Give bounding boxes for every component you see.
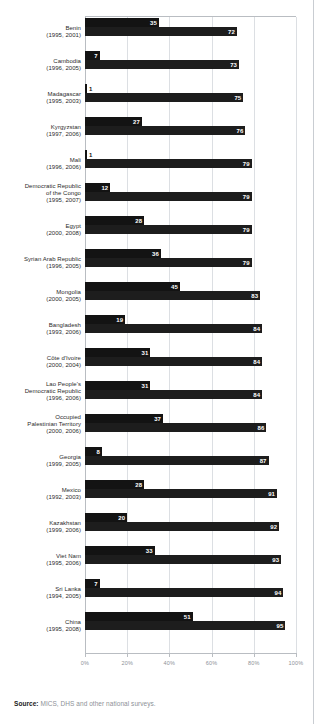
bar-later: 84 xyxy=(85,357,262,366)
bar-value-label: 45 xyxy=(171,284,178,290)
bar-later: 87 xyxy=(85,456,269,465)
bar-value-label: 79 xyxy=(243,161,250,167)
survey-years: (1995, 2008) xyxy=(0,626,81,633)
row-label: Bangladesh(1993, 2006) xyxy=(0,322,81,337)
bar-value-label: 87 xyxy=(260,458,267,464)
country-name-line: Syrian Arab Republic xyxy=(0,256,81,263)
bar-later: 79 xyxy=(85,258,252,267)
country-name-line: Georgia xyxy=(0,454,81,461)
bar-value-label: 36 xyxy=(152,251,159,257)
survey-years: (1996, 2006) xyxy=(0,164,81,171)
bar-later: 75 xyxy=(85,93,243,102)
country-name-line: Mexico xyxy=(0,487,81,494)
bar-value-label: 31 xyxy=(142,350,149,356)
bar-earlier: 7 xyxy=(85,51,100,60)
bar-later: 73 xyxy=(85,60,239,69)
bar-value-label: 86 xyxy=(258,425,265,431)
bar-value-label: 28 xyxy=(135,482,142,488)
bar-later: 76 xyxy=(85,126,245,135)
survey-years: (1992, 2003) xyxy=(0,494,81,501)
bar-value-label: 31 xyxy=(142,383,149,389)
x-axis-line xyxy=(85,653,296,654)
source-note: Source: MICS, DHS and other national sur… xyxy=(14,700,156,707)
bar-row: Lao People'sDemocratic Republic(1996, 20… xyxy=(0,379,313,412)
bar-row: Benin(1995, 2001)3572 xyxy=(0,16,313,49)
country-name-line: Côte d'Ivoire xyxy=(0,355,81,362)
row-label: Madagascar(1995, 2003) xyxy=(0,91,81,106)
bar-later: 83 xyxy=(85,291,260,300)
x-tick-label-40: 40% xyxy=(164,660,176,666)
x-tick-label-20: 20% xyxy=(121,660,133,666)
bar-later: 91 xyxy=(85,489,277,498)
x-tick-label-0: 0% xyxy=(81,660,89,666)
bar-value-label: 79 xyxy=(243,260,250,266)
bar-row: China(1995, 2008)5195 xyxy=(0,610,313,643)
bar-value-label: 35 xyxy=(150,20,157,26)
x-tick-20 xyxy=(127,653,128,657)
bar-value-label: 75 xyxy=(234,95,241,101)
x-tick-label-100: 100% xyxy=(289,660,304,666)
row-label: Mexico(1992, 2003) xyxy=(0,487,81,502)
x-tick-80 xyxy=(254,653,255,657)
bar-earlier: 45 xyxy=(85,282,180,291)
bar-row: Côte d'Ivoire(2000, 2004)3184 xyxy=(0,346,313,379)
bar-row: Mali(1996, 2006)179 xyxy=(0,148,313,181)
bar-later: 84 xyxy=(85,324,262,333)
country-name-line: Benin xyxy=(0,25,81,32)
bar-later: 72 xyxy=(85,27,237,36)
survey-years: (2000, 2006) xyxy=(0,428,81,435)
bar-earlier: 35 xyxy=(85,18,159,27)
bar-value-label: 91 xyxy=(268,491,275,497)
bar-later: 79 xyxy=(85,159,252,168)
x-tick-60 xyxy=(212,653,213,657)
source-label: Source: xyxy=(14,700,39,707)
row-label: Mali(1996, 2006) xyxy=(0,157,81,172)
survey-years: (1994, 2005) xyxy=(0,593,81,600)
country-name-line: China xyxy=(0,619,81,626)
bar-value-label: 95 xyxy=(277,623,284,629)
survey-years: (1996, 2006) xyxy=(0,395,81,402)
bar-value-label: 8 xyxy=(96,449,99,455)
bar-earlier: 28 xyxy=(85,216,144,225)
survey-years: (1997, 2006) xyxy=(0,131,81,138)
bar-earlier: 28 xyxy=(85,480,144,489)
bar-later: 92 xyxy=(85,522,279,531)
bar-row: Mongolia(2000, 2005)4583 xyxy=(0,280,313,313)
bar-later: 84 xyxy=(85,390,262,399)
bar-later: 79 xyxy=(85,225,252,234)
row-label: Viet Nam(1995, 2006) xyxy=(0,553,81,568)
row-label: Democratic Republicof the Congo(1995, 20… xyxy=(0,183,81,205)
bar-later: 86 xyxy=(85,423,266,432)
bar-value-label: 7 xyxy=(94,581,97,587)
survey-years: (2000, 2008) xyxy=(0,230,81,237)
bar-earlier: 1 xyxy=(85,84,87,93)
bar-earlier: 8 xyxy=(85,447,102,456)
country-name-line: Mali xyxy=(0,157,81,164)
survey-years: (1999, 2006) xyxy=(0,527,81,534)
bar-value-label: 7 xyxy=(94,53,97,59)
bar-value-label: 28 xyxy=(135,218,142,224)
survey-years: (1996, 2005) xyxy=(0,263,81,270)
bar-later: 93 xyxy=(85,555,281,564)
bar-row: OccupiedPalestinian Territory(2000, 2006… xyxy=(0,412,313,445)
bar-row: Georgia(1999, 2005)887 xyxy=(0,445,313,478)
bar-value-label: 79 xyxy=(243,227,250,233)
bar-row: Bangladesh(1993, 2006)1984 xyxy=(0,313,313,346)
x-tick-label-60: 60% xyxy=(206,660,218,666)
survey-years: (1995, 2003) xyxy=(0,98,81,105)
country-name-line: of the Congo xyxy=(0,190,81,197)
bar-value-label: 84 xyxy=(253,326,260,332)
country-name-line: Cambodia xyxy=(0,58,81,65)
bar-row: Sri Lanka(1994, 2005)794 xyxy=(0,577,313,610)
country-name-line: Sri Lanka xyxy=(0,586,81,593)
row-label: China(1995, 2008) xyxy=(0,619,81,634)
row-label: Côte d'Ivoire(2000, 2004) xyxy=(0,355,81,370)
bar-later: 95 xyxy=(85,621,285,630)
survey-years: (1995, 2001) xyxy=(0,32,81,39)
bar-value-label: 1 xyxy=(89,152,92,158)
bar-later: 79 xyxy=(85,192,252,201)
country-name-line: Viet Nam xyxy=(0,553,81,560)
row-label: Kazakhstan(1999, 2006) xyxy=(0,520,81,535)
survey-years: (2000, 2005) xyxy=(0,296,81,303)
bar-value-label: 37 xyxy=(154,416,161,422)
